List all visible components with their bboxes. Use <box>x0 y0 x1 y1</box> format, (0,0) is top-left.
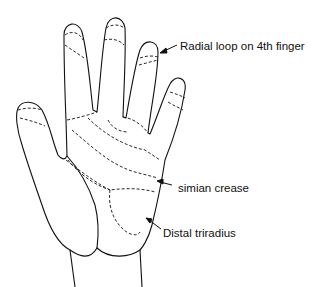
label-distal-triradius: Distal triradius <box>163 228 236 240</box>
label-simian-crease: simian crease <box>178 183 249 195</box>
hand-outline <box>17 18 186 287</box>
label-radial-loop: Radial loop on 4th finger <box>180 41 305 53</box>
hand-diagram: Radial loop on 4th finger simian crease … <box>0 0 316 287</box>
